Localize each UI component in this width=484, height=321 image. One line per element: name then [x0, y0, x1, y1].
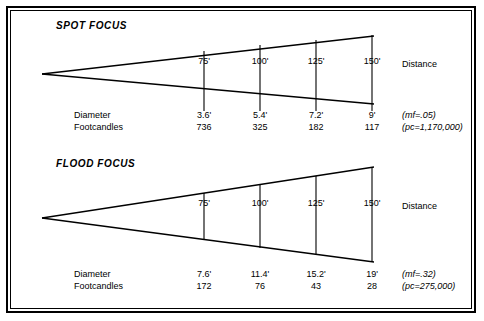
spot-footcandles-value-2: 182	[293, 122, 339, 132]
spot-footcandles-value-3: 117	[349, 122, 395, 132]
flood-footcandles-value-2: 43	[293, 281, 339, 291]
spot-footcandles-value-0: 736	[181, 122, 227, 132]
flood-footcandles-value-1: 76	[237, 281, 283, 291]
flood-tick-label-2: 125'	[293, 198, 339, 208]
flood-tick-label-0: 75'	[181, 198, 227, 208]
flood-diameter-value-0: 7.6'	[181, 269, 227, 279]
spot-diameter-value-3: 9'	[349, 110, 395, 120]
spot-diameter-value-0: 3.6'	[181, 110, 227, 120]
flood-diameter-value-2: 15.2'	[293, 269, 339, 279]
spot-diameter-row-label: Diameter	[74, 110, 111, 120]
flood-focus-panel: FLOOD FOCUS 75' 100' 125' 150' Distance …	[14, 152, 470, 304]
flood-diameter-row-label: Diameter	[74, 269, 111, 279]
flood-distance-axis-label: Distance	[402, 201, 437, 211]
flood-mf-note: (mf=.32)	[402, 269, 436, 279]
spot-tick-label-2: 125'	[293, 56, 339, 66]
flood-footcandles-row-label: Footcandles	[74, 281, 123, 291]
spot-footcandles-row-label: Footcandles	[74, 122, 123, 132]
flood-pc-note: (pc=275,000)	[402, 281, 455, 291]
spot-tick-label-1: 100'	[237, 56, 283, 66]
spot-tick-label-0: 75'	[181, 56, 227, 66]
diagram-page: SPOT FOCUS 75' 100' 125' 150' Distance D…	[0, 0, 484, 321]
spot-distance-axis-label: Distance	[402, 59, 437, 69]
spot-tick-label-3: 150'	[349, 56, 395, 66]
flood-tick-label-3: 150'	[349, 198, 395, 208]
spot-focus-panel: SPOT FOCUS 75' 100' 125' 150' Distance D…	[14, 14, 470, 152]
flood-diameter-value-3: 19'	[349, 269, 395, 279]
flood-footcandles-value-0: 172	[181, 281, 227, 291]
flood-footcandles-value-3: 28	[349, 281, 395, 291]
spot-footcandles-value-1: 325	[237, 122, 283, 132]
spot-diameter-value-1: 5.4'	[237, 110, 283, 120]
flood-diameter-value-1: 11.4'	[237, 269, 283, 279]
spot-diameter-value-2: 7.2'	[293, 110, 339, 120]
spot-pc-note: (pc=1,170,000)	[402, 122, 463, 132]
spot-mf-note: (mf=.05)	[402, 110, 436, 120]
flood-tick-label-1: 100'	[237, 198, 283, 208]
